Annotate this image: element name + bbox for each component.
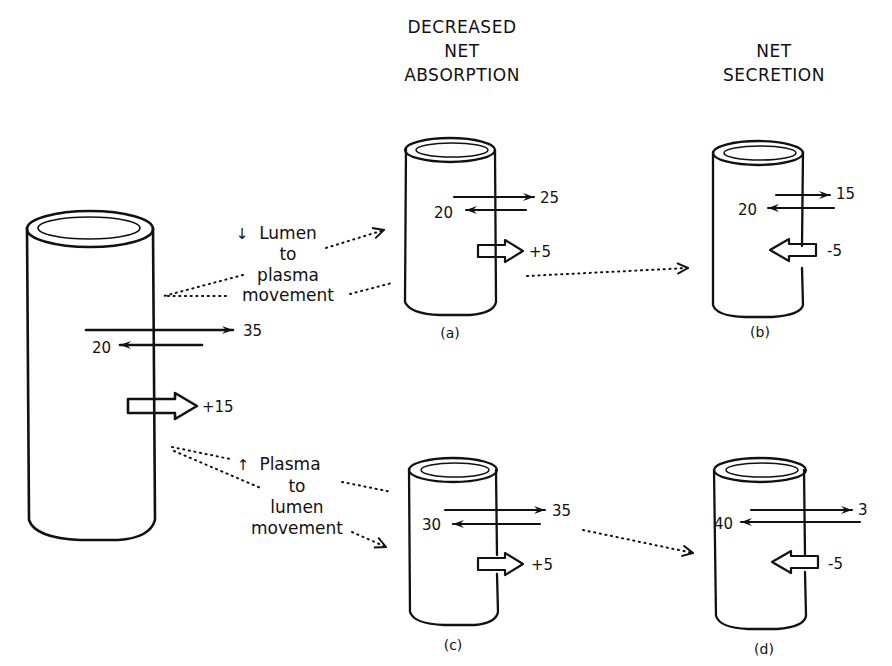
net-flux-value: +5 — [529, 243, 551, 261]
cylinder-caption: (c) — [444, 637, 463, 653]
net-flux-arrow-icon — [770, 239, 816, 261]
header-line: SECRETION — [723, 65, 825, 85]
net-flux-value: -5 — [828, 555, 843, 573]
flux-value-lumen-to-plasma: 15 — [836, 185, 855, 203]
cylinder-baseline: 35 20 +15 — [27, 211, 262, 540]
net-flux-arrow-icon — [478, 553, 523, 575]
cylinder-b: 15 20 -5 (b) — [713, 141, 855, 340]
svg-text:to: to — [288, 476, 305, 496]
net-flux-value: +5 — [531, 556, 553, 574]
header-line: NET — [756, 41, 791, 61]
flux-value-lumen-to-plasma: 3 — [858, 501, 868, 519]
flux-value-lumen-to-plasma: 35 — [552, 502, 571, 520]
dotted-arrow-to-a — [326, 230, 384, 248]
svg-text:lumen: lumen — [270, 497, 323, 517]
intestinal-flux-diagram: DECREASED NET ABSORPTION NET SECRETION 3… — [0, 0, 892, 666]
down-arrow-icon: ↓ — [236, 225, 249, 243]
dotted-line — [350, 283, 392, 294]
header-line: DECREASED — [407, 17, 516, 37]
svg-text:plasma: plasma — [257, 265, 319, 285]
label-plasma-to-lumen-movement: ↑ Plasma to lumen movement — [237, 454, 344, 538]
dotted-line — [342, 482, 392, 492]
flux-value-lumen-to-plasma: 35 — [243, 322, 262, 340]
flux-value-plasma-to-lumen: 20 — [92, 339, 111, 357]
cylinder-c: 35 30 +5 (c) — [409, 458, 571, 653]
cylinder-a: 25 20 +5 (a) — [405, 138, 559, 341]
svg-text:Plasma: Plasma — [259, 454, 320, 474]
net-flux-value: +15 — [202, 398, 234, 416]
svg-text:Lumen: Lumen — [259, 223, 317, 243]
svg-text:movement: movement — [242, 285, 334, 305]
dotted-arrow-a-to-b — [527, 268, 688, 276]
flux-value-plasma-to-lumen: 20 — [738, 201, 757, 219]
flux-value-plasma-to-lumen: 30 — [422, 516, 441, 534]
dotted-arrow-c-to-d — [583, 530, 693, 553]
net-flux-arrow-icon — [478, 240, 523, 262]
cylinder-caption: (a) — [440, 325, 460, 341]
flux-value-plasma-to-lumen: 40 — [714, 515, 733, 533]
net-flux-arrow-icon — [772, 551, 818, 573]
net-flux-arrow-icon — [128, 393, 197, 419]
cylinder-caption: (d) — [754, 641, 774, 657]
header-line: NET — [444, 41, 479, 61]
svg-text:movement: movement — [251, 518, 343, 538]
flux-value-lumen-to-plasma: 25 — [540, 189, 559, 207]
up-arrow-icon: ↑ — [237, 456, 250, 474]
dotted-line — [164, 275, 243, 296]
net-flux-value: -5 — [827, 242, 842, 260]
cylinder-caption: (b) — [750, 324, 770, 340]
dotted-arrow-to-c — [352, 532, 386, 547]
label-lumen-to-plasma-movement: ↓ Lumen to plasma movement — [236, 223, 335, 305]
header-decreased-net-absorption: DECREASED NET ABSORPTION — [404, 17, 520, 85]
flux-value-plasma-to-lumen: 20 — [434, 204, 453, 222]
cylinder-d: 3 40 -5 (d) — [714, 458, 868, 657]
header-net-secretion: NET SECRETION — [723, 41, 825, 85]
header-line: ABSORPTION — [404, 65, 520, 85]
svg-text:to: to — [279, 244, 296, 264]
